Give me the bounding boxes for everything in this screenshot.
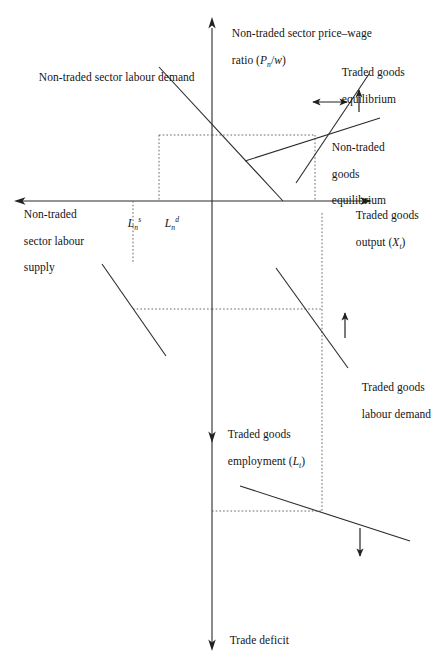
- output-open: output (: [356, 236, 393, 248]
- nontraded-labour-demand-curve: [159, 67, 283, 201]
- trade-deficit-text: Trade deficit: [230, 634, 289, 646]
- horizontal-axis-right-label: Traded goods output (Xt): [350, 196, 419, 249]
- ln-demand-sub: n: [171, 224, 175, 233]
- traded-goods-labour-demand-label: Traded goods labour demand: [356, 368, 431, 421]
- construction-lines-quadrant2: [133, 135, 212, 264]
- horizontal-axis-left-label: Non-traded sector labour supply: [18, 195, 84, 274]
- ln-supply-sup: s: [138, 215, 141, 224]
- nontraded-labour-demand-label: Non-traded sector labour demand: [33, 58, 195, 84]
- vertical-axis-bottom-label: Traded goods employment (Lt): [222, 415, 305, 468]
- hl-line3: supply: [24, 261, 55, 273]
- construction-lines-quadrant1: [212, 135, 315, 201]
- vb-line1: Traded goods: [228, 428, 291, 440]
- tgld-line2: labour demand: [362, 408, 431, 420]
- traded-goods-labour-demand-curve: [276, 268, 348, 368]
- ln-demand-sup: d: [175, 215, 179, 224]
- hl-line1: Non-traded: [24, 208, 77, 220]
- hr-line1: Traded goods: [356, 209, 419, 221]
- vertical-axis-top-label-line1: Non-traded sector price–wage: [232, 27, 372, 39]
- tgld-line1: Traded goods: [362, 381, 425, 393]
- nontraded-labour-demand-text: Non-traded sector labour demand: [39, 71, 195, 83]
- trade-balance-curve: [240, 486, 410, 541]
- employment-open: employment (: [228, 455, 293, 467]
- ln-supply-sub: n: [134, 224, 138, 233]
- output-close: ): [402, 236, 406, 248]
- vertical-axis: [208, 17, 215, 651]
- hr-line2: output (Xt): [356, 236, 406, 248]
- nontraded-labour-supply-curve: [102, 264, 166, 356]
- ln-supply-marker: Lns: [122, 204, 141, 230]
- employment-close: ): [301, 455, 305, 467]
- nge-line2: goods: [332, 168, 360, 180]
- hl-line2: sector labour: [24, 235, 84, 247]
- trade-deficit-label: Trade deficit: [224, 621, 289, 647]
- symbol-w: w: [274, 54, 282, 66]
- nge-line1: Non-traded: [332, 141, 385, 153]
- tge-line1: Traded goods: [342, 66, 405, 78]
- ratio-close: ): [282, 54, 286, 66]
- ln-demand-marker: Lnd: [159, 204, 179, 230]
- axis-top-arrow-icon: [208, 17, 215, 29]
- ratio-open: ratio (: [232, 54, 260, 66]
- traded-goods-equilibrium-label: Traded goods equilibrium: [336, 53, 405, 106]
- vertical-axis-top-label-line2: ratio (Pn/w): [232, 54, 286, 66]
- tge-line2: equilibrium: [342, 93, 396, 105]
- vb-line2: employment (Lt): [228, 455, 305, 467]
